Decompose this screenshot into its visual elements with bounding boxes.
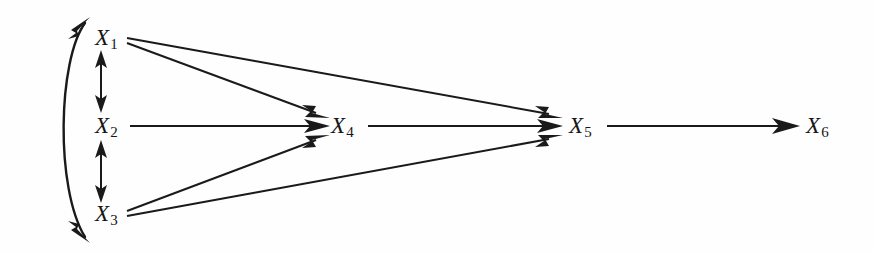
edge-x1-x2-correlation (95, 50, 107, 113)
node-label-x1: X1 (95, 26, 117, 49)
edge-x3-to-x4 (127, 135, 330, 211)
node-x1-subscript: 1 (110, 36, 118, 52)
edge-x1-x3-curved-correlation (64, 17, 90, 243)
node-label-x4: X4 (331, 114, 353, 137)
node-x2-name: X (95, 113, 109, 138)
node-x6-name: X (806, 113, 820, 138)
path-diagram-canvas (0, 0, 874, 253)
node-x1-name: X (95, 25, 109, 50)
path-diagram-figure: X1 X2 X3 X4 X5 X6 (0, 0, 874, 253)
edge-x1-to-x4 (127, 43, 330, 118)
node-x6-subscript: 6 (821, 124, 829, 140)
node-label-x6: X6 (806, 114, 828, 137)
node-x2-subscript: 2 (110, 124, 118, 140)
node-x4-subscript: 4 (346, 124, 354, 140)
node-x4-name: X (331, 113, 345, 138)
edge-x2-x3-correlation (95, 140, 107, 203)
edge-x1-to-x5 (127, 38, 563, 118)
edge-x5-to-x6 (607, 118, 800, 134)
node-label-x5: X5 (569, 114, 591, 137)
node-x3-name: X (95, 201, 109, 226)
edge-x4-to-x5 (368, 119, 563, 133)
edge-x2-to-x4 (130, 119, 330, 133)
edge-x3-to-x5 (127, 135, 563, 216)
node-label-x2: X2 (95, 114, 117, 137)
arrowhead-into-x4-from-x3 (302, 135, 330, 148)
node-x5-subscript: 5 (584, 124, 592, 140)
node-x5-name: X (569, 113, 583, 138)
arrowhead-into-x4-from-x1 (302, 105, 330, 118)
node-label-x3: X3 (95, 202, 117, 225)
node-x3-subscript: 3 (110, 212, 118, 228)
